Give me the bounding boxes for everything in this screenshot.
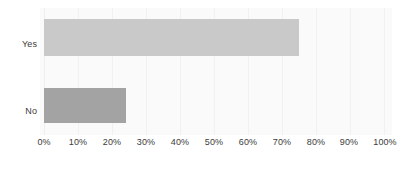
x-tick-50: 50% [205, 137, 223, 148]
x-tick-0: 0% [37, 137, 50, 148]
category-label-yes: Yes [1, 39, 37, 49]
x-tick-40: 40% [171, 137, 189, 148]
x-tick-70: 70% [273, 137, 291, 148]
bar-row-no [40, 8, 392, 135]
x-tick-90: 90% [340, 137, 358, 148]
x-tick-60: 60% [239, 137, 257, 148]
x-tick-10: 10% [69, 137, 87, 148]
plot-area [40, 8, 392, 135]
x-tick-100: 100% [373, 137, 396, 148]
x-tick-30: 30% [137, 137, 155, 148]
bar-no[interactable] [44, 88, 126, 123]
category-axis: Yes No [0, 8, 37, 135]
bar-chart: Yes No 0% 10% 20% 30% 40% 50% 60% 70% 80… [0, 0, 411, 169]
x-tick-20: 20% [103, 137, 121, 148]
x-axis: 0% 10% 20% 30% 40% 50% 60% 70% 80% 90% 1… [40, 137, 392, 157]
x-tick-80: 80% [307, 137, 325, 148]
category-label-no: No [1, 106, 37, 116]
